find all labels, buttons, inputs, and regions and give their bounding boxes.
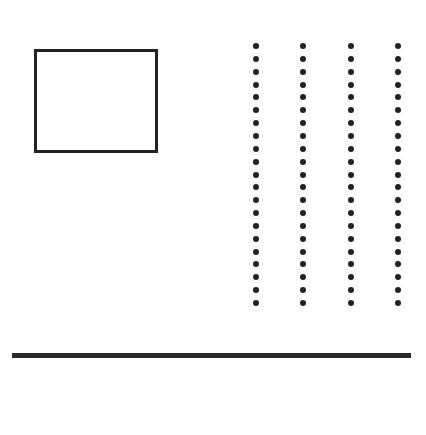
dot (253, 82, 259, 88)
dot (253, 69, 259, 75)
dot (300, 82, 306, 88)
dot (253, 261, 259, 267)
dot (253, 56, 259, 62)
dot (395, 159, 401, 165)
dot (300, 236, 306, 242)
dot (348, 146, 354, 152)
dot (253, 159, 259, 165)
dot (253, 43, 259, 49)
dot (253, 300, 259, 306)
outlined-rectangle (34, 49, 158, 153)
dot (253, 94, 259, 100)
dot (395, 120, 401, 126)
dot (348, 159, 354, 165)
dot (300, 120, 306, 126)
dot (253, 274, 259, 280)
dot (348, 69, 354, 75)
dot (395, 69, 401, 75)
dot (300, 43, 306, 49)
dot (300, 184, 306, 190)
dot (395, 261, 401, 267)
dot (348, 172, 354, 178)
dot (300, 223, 306, 229)
dot (253, 249, 259, 255)
dot (300, 287, 306, 293)
dot (300, 56, 306, 62)
dot (300, 159, 306, 165)
dot (348, 94, 354, 100)
dot (253, 236, 259, 242)
dot (395, 94, 401, 100)
dot (395, 184, 401, 190)
dot (253, 197, 259, 203)
dot (395, 43, 401, 49)
horizontal-rule (12, 353, 411, 358)
dot (348, 133, 354, 139)
dot (348, 300, 354, 306)
dot (253, 133, 259, 139)
dot (300, 300, 306, 306)
dot (348, 223, 354, 229)
dot (253, 210, 259, 216)
dot (395, 210, 401, 216)
dot (395, 172, 401, 178)
dot (300, 274, 306, 280)
dot (253, 172, 259, 178)
dot (395, 197, 401, 203)
dot (253, 287, 259, 293)
dot (348, 249, 354, 255)
dot (253, 223, 259, 229)
dot (253, 146, 259, 152)
dot (300, 146, 306, 152)
dot (253, 184, 259, 190)
dot (395, 107, 401, 113)
dot (300, 107, 306, 113)
dot (348, 120, 354, 126)
dot (395, 56, 401, 62)
dot (348, 287, 354, 293)
dot (300, 133, 306, 139)
dot (300, 172, 306, 178)
dot (300, 94, 306, 100)
dot (348, 197, 354, 203)
dot (395, 133, 401, 139)
dot (348, 210, 354, 216)
dot (395, 287, 401, 293)
dot (395, 300, 401, 306)
dot (253, 107, 259, 113)
dot (395, 82, 401, 88)
dot (395, 146, 401, 152)
dot (300, 69, 306, 75)
dot (300, 210, 306, 216)
dot (253, 120, 259, 126)
dot (395, 236, 401, 242)
dot (395, 249, 401, 255)
dot (348, 82, 354, 88)
dot (300, 197, 306, 203)
dot (348, 236, 354, 242)
dot (348, 107, 354, 113)
dot (300, 249, 306, 255)
dot (348, 184, 354, 190)
dot (348, 43, 354, 49)
dot (395, 223, 401, 229)
dot (348, 261, 354, 267)
dot (395, 274, 401, 280)
dot (348, 56, 354, 62)
dot (348, 274, 354, 280)
dot (300, 261, 306, 267)
